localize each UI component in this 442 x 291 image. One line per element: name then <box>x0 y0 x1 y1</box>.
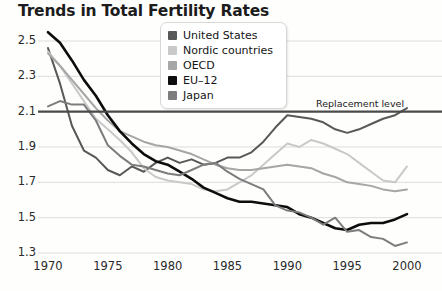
x-axis-tick-label: 1970 <box>28 259 68 273</box>
y-axis-tick-label: 1.9 <box>8 139 36 153</box>
y-axis-tick-label: 2.3 <box>8 68 36 82</box>
legend-item[interactable]: OECD <box>168 58 280 73</box>
x-axis-tick-label: 1980 <box>148 259 188 273</box>
legend-item-label: Nordic countries <box>183 43 273 58</box>
legend-item[interactable]: Nordic countries <box>168 43 280 58</box>
x-axis-tick-label: 1975 <box>88 259 128 273</box>
y-axis-tick-label: 1.3 <box>8 245 36 259</box>
x-axis-tick-label: 2000 <box>387 259 427 273</box>
legend-item[interactable]: United States <box>168 28 280 43</box>
legend-item-label: Japan <box>183 88 214 103</box>
y-axis-tick-label: 1.5 <box>8 210 36 224</box>
legend-item-label: United States <box>183 28 258 43</box>
x-axis-tick-label: 1990 <box>267 259 307 273</box>
legend-swatch-icon <box>168 46 177 55</box>
legend-swatch-icon <box>168 91 177 100</box>
replacement-level-annotation: Replacement level <box>316 98 404 109</box>
legend-item-label: OECD <box>183 58 215 73</box>
legend-item[interactable]: Japan <box>168 88 280 103</box>
legend-swatch-icon <box>168 61 177 70</box>
fertility-rate-chart: Trends in Total Fertility Rates 2.52.32.… <box>0 0 442 291</box>
x-axis-tick-label: 1985 <box>208 259 248 273</box>
legend-swatch-icon <box>168 31 177 40</box>
legend-swatch-icon <box>168 76 177 85</box>
y-axis-tick-label: 2.1 <box>8 104 36 118</box>
y-axis-tick-label: 2.5 <box>8 33 36 47</box>
x-axis-tick-label: 1995 <box>327 259 367 273</box>
chart-legend: United StatesNordic countriesOECDEU–12Ja… <box>160 22 287 109</box>
y-axis-tick-label: 1.7 <box>8 174 36 188</box>
legend-item-label: EU–12 <box>183 73 218 88</box>
legend-item[interactable]: EU–12 <box>168 73 280 88</box>
